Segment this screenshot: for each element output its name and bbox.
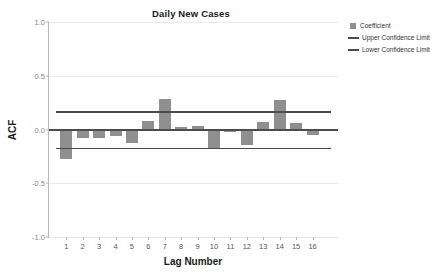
bar [93, 130, 105, 139]
x-tick-mark [148, 237, 149, 240]
x-tick-mark [116, 237, 117, 240]
x-tick-label: 5 [130, 242, 134, 251]
x-tick-mark [296, 237, 297, 240]
legend-item-label: Upper Confidence Limit [362, 34, 430, 41]
x-tick-mark [263, 237, 264, 240]
lower-confidence-limit-line [56, 148, 331, 150]
x-tick-label: 3 [97, 242, 101, 251]
y-tick-mark [46, 22, 49, 23]
y-tick-label: 0.0 [35, 125, 45, 134]
bar [60, 130, 72, 159]
upper-confidence-limit-line [56, 111, 331, 113]
x-tick-mark [132, 237, 133, 240]
x-tick-label: 16 [308, 242, 316, 251]
x-tick-label: 1 [64, 242, 68, 251]
y-tick-mark [46, 75, 49, 76]
y-tick-label: 0.5 [35, 71, 45, 80]
x-tick-label: 9 [196, 242, 200, 251]
legend-item-label: Lower Confidence Limit [362, 46, 430, 53]
line-swatch-icon [348, 49, 359, 51]
x-tick-label: 8 [179, 242, 183, 251]
x-tick-label: 12 [243, 242, 251, 251]
y-axis-label: ACF [7, 120, 18, 141]
x-tick-mark [99, 237, 100, 240]
y-gridline [49, 183, 338, 184]
x-tick-mark [198, 237, 199, 240]
x-tick-mark [230, 237, 231, 240]
x-tick-label: 15 [292, 242, 300, 251]
x-tick-label: 6 [146, 242, 150, 251]
x-tick-mark [247, 237, 248, 240]
square-swatch-icon [350, 23, 356, 29]
bar [77, 130, 89, 139]
line-swatch-icon [348, 37, 359, 39]
x-tick-mark [83, 237, 84, 240]
x-tick-mark [313, 237, 314, 240]
x-tick-label: 4 [113, 242, 117, 251]
bar [208, 130, 220, 149]
y-gridline [49, 237, 338, 238]
y-tick-mark [46, 183, 49, 184]
y-gridline [49, 22, 338, 23]
legend-item-coefficient: Coefficient [348, 20, 446, 31]
x-tick-label: 10 [210, 242, 218, 251]
x-tick-mark [214, 237, 215, 240]
y-tick-label: -1.0 [32, 233, 45, 242]
bar [159, 99, 171, 129]
legend-item-upper-confidence-limit: Upper Confidence Limit [348, 32, 446, 43]
x-tick-mark [280, 237, 281, 240]
y-gridline [49, 76, 338, 77]
x-tick-label: 11 [227, 242, 235, 251]
bar [126, 130, 138, 144]
legend-item-lower-confidence-limit: Lower Confidence Limit [348, 44, 446, 55]
x-tick-label: 2 [81, 242, 85, 251]
x-tick-label: 13 [259, 242, 267, 251]
chart-title: Daily New Cases [56, 8, 326, 19]
plot-area: 1.00.50.0-0.5-1.012345678910111213141516 [48, 22, 338, 238]
x-axis-label: Lag Number [48, 256, 338, 267]
x-tick-mark [181, 237, 182, 240]
y-tick-label: -0.5 [32, 179, 45, 188]
legend-item-label: Coefficient [360, 22, 391, 29]
chart-legend: Coefficient Upper Confidence Limit Lower… [348, 20, 446, 56]
zero-line [49, 129, 338, 131]
bar [241, 130, 253, 145]
x-tick-label: 7 [163, 242, 167, 251]
acf-chart: Daily New Cases ACF 1.00.50.0-0.5-1.0123… [0, 0, 448, 280]
y-tick-mark [46, 237, 49, 238]
bar [274, 100, 286, 129]
x-tick-mark [66, 237, 67, 240]
x-tick-label: 14 [276, 242, 284, 251]
y-tick-label: 1.0 [35, 18, 45, 27]
x-tick-mark [165, 237, 166, 240]
